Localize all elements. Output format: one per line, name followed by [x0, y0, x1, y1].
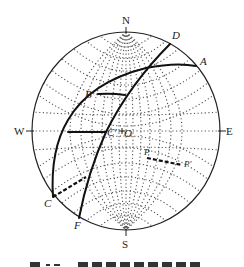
label-west: W	[14, 125, 25, 137]
label-point-B: B	[85, 88, 92, 100]
label-north: N	[122, 14, 130, 26]
label-east: E	[226, 125, 233, 137]
label-point-D: D	[171, 29, 180, 41]
label-point-O: O	[124, 127, 132, 139]
label-point-A: A	[199, 55, 207, 67]
label-point-C: C	[44, 197, 52, 209]
label-point-C-prime: C'	[107, 126, 117, 138]
label-point-P: P	[143, 147, 150, 157]
segment-B-to-FD	[98, 94, 125, 95]
stereonet-figure: N S W E D A B C' O C F P P'	[0, 0, 244, 267]
figure-caption-cropped	[22, 261, 222, 267]
label-point-F: F	[73, 219, 81, 231]
label-south: S	[122, 238, 128, 250]
segment-C-to-FD	[53, 177, 86, 197]
label-point-P-prime: P'	[183, 159, 192, 169]
